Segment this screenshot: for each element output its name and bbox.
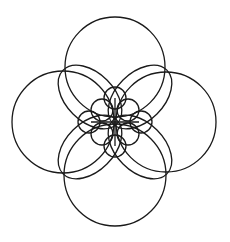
diagonal-circle-upper-left — [91, 99, 113, 121]
center-cross-group — [91, 98, 139, 146]
diagonal-circle-upper-right — [117, 99, 139, 121]
circle-pattern-diagram — [0, 0, 230, 242]
diagram-svg — [0, 0, 230, 242]
